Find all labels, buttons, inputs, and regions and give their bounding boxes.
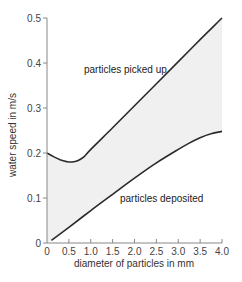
x-tick-label: 3.0: [171, 246, 185, 257]
x-ticks: 00.51.01.52.02.53.03.54.0: [44, 239, 229, 257]
chart: 00.10.20.30.40.5 00.51.01.52.02.53.03.54…: [0, 0, 242, 282]
y-tick-label: 0.2: [27, 148, 41, 159]
x-tick-label: 0.5: [62, 246, 76, 257]
x-tick-label: 2.5: [149, 246, 163, 257]
y-tick-label: 0.5: [27, 13, 41, 24]
y-tick-label: 0.4: [27, 58, 41, 69]
y-tick-label: 0.3: [27, 103, 41, 114]
x-tick-label: 1.0: [84, 246, 98, 257]
shaded-band: [47, 18, 222, 243]
x-axis-title: diameter of particles in mm: [74, 258, 194, 269]
y-tick-label: 0.1: [27, 193, 41, 204]
annotation-deposited: particles deposited: [120, 193, 203, 204]
y-ticks: 00.10.20.30.40.5: [27, 13, 47, 249]
x-tick-label: 4.0: [215, 246, 229, 257]
annotation-picked-up: particles picked up: [84, 64, 167, 75]
x-tick-label: 2.0: [128, 246, 142, 257]
y-axis-title: water speed in m/s: [7, 93, 18, 178]
x-tick-label: 0: [44, 246, 50, 257]
x-tick-label: 1.5: [106, 246, 120, 257]
y-tick-label: 0: [35, 238, 41, 249]
x-tick-label: 3.5: [193, 246, 207, 257]
